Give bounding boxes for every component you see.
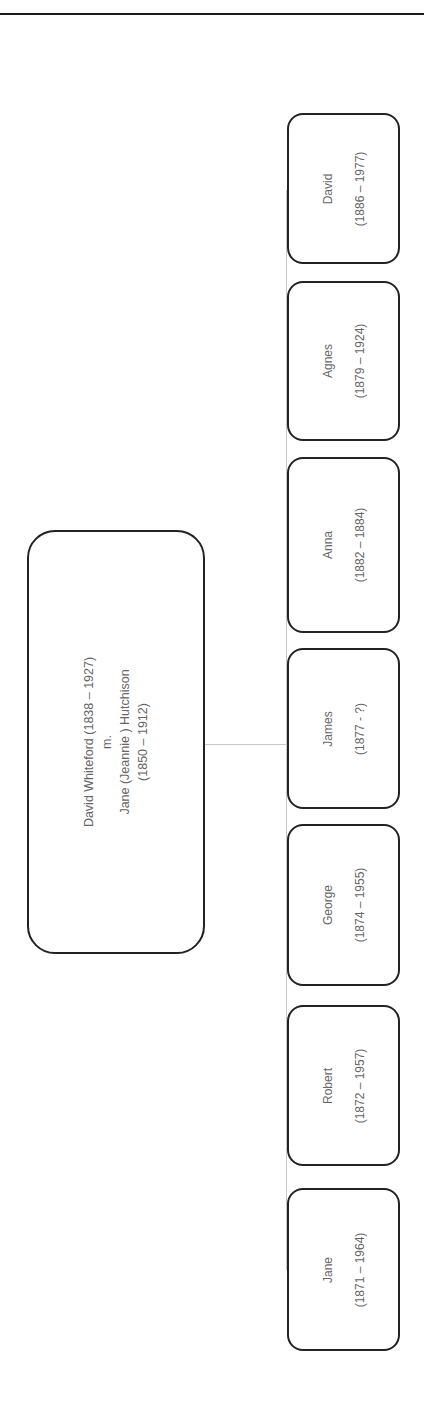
child-dates: (1872 – 1957)	[351, 1048, 369, 1123]
parent-couple-text: David Whiteford (1838 – 1927) m. Jane (J…	[80, 657, 153, 827]
child-name: Agnes	[321, 344, 335, 378]
child-dates: (1874 – 1955)	[351, 868, 369, 943]
child-box-robert: Robert (1872 – 1957)	[287, 1005, 400, 1166]
child-dates: (1886 – 1977)	[351, 151, 369, 226]
parent-couple-box: David Whiteford (1838 – 1927) m. Jane (J…	[27, 530, 205, 954]
child-name: George	[321, 885, 335, 925]
child-box-george: George (1874 – 1955)	[287, 824, 400, 986]
child-text: Jane (1871 – 1964)	[319, 1232, 369, 1307]
child-name: Jane	[321, 1256, 335, 1282]
child-text: George (1874 – 1955)	[319, 868, 369, 943]
child-box-david: David (1886 – 1977)	[287, 113, 400, 264]
child-text: Agnes (1879 – 1924)	[319, 324, 369, 399]
child-dates: (1877 - ?)	[351, 702, 369, 754]
child-name: Robert	[321, 1067, 335, 1103]
mother-dates: (1850 – 1912)	[134, 657, 152, 827]
top-rule	[0, 13, 424, 15]
child-text: Robert (1872 – 1957)	[319, 1048, 369, 1123]
child-box-anna: Anna (1882 – 1884)	[287, 457, 400, 633]
child-name: Anna	[321, 531, 335, 559]
child-box-agnes: Agnes (1879 – 1924)	[287, 281, 400, 441]
child-text: Anna (1882 – 1884)	[319, 508, 369, 583]
child-dates: (1871 – 1964)	[351, 1232, 369, 1307]
parent-connector-line	[205, 744, 287, 745]
father-name: David Whiteford (1838 – 1927)	[80, 657, 98, 827]
mother-name: Jane (Jeannie ) Hutchison	[116, 657, 134, 827]
child-box-james: James (1877 - ?)	[287, 648, 400, 809]
child-text: David (1886 – 1977)	[319, 151, 369, 226]
married-label: m.	[98, 657, 116, 827]
child-dates: (1879 – 1924)	[351, 324, 369, 399]
child-text: James (1877 - ?)	[319, 702, 369, 754]
child-box-jane: Jane (1871 – 1964)	[287, 1188, 400, 1351]
child-dates: (1882 – 1884)	[351, 508, 369, 583]
child-name: James	[321, 711, 335, 746]
child-name: David	[321, 173, 335, 204]
